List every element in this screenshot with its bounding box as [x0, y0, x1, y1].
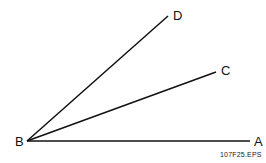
label-c: C [221, 64, 230, 77]
label-d: D [173, 9, 182, 22]
angle-diagram [0, 0, 266, 163]
label-b: B [15, 135, 24, 148]
ray-bd [27, 16, 168, 141]
label-a: A [254, 135, 263, 148]
figure-caption: 107F25.EPS [220, 151, 262, 158]
ray-bc [27, 72, 216, 141]
